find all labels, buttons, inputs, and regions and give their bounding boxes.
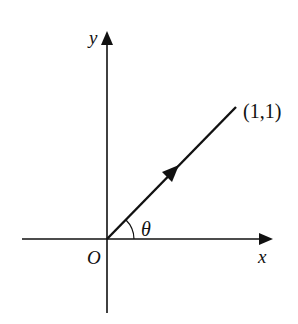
angle-label: θ — [141, 219, 151, 239]
y-axis-label: y — [89, 28, 97, 47]
coordinate-diagram: y (1,1) θ O x — [0, 0, 298, 324]
x-axis-label: x — [258, 247, 266, 266]
origin-label: O — [87, 248, 101, 267]
y-axis-arrow-icon — [101, 31, 113, 45]
diagram-canvas — [0, 0, 298, 324]
point-label: (1,1) — [243, 101, 281, 121]
angle-arc — [126, 220, 134, 239]
x-axis-arrow-icon — [259, 233, 273, 245]
